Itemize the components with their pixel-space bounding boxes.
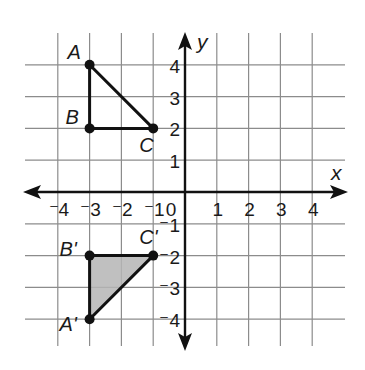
vertex-label: C' (139, 226, 158, 248)
x-tick-label: ⁻2 (112, 199, 133, 220)
vertex-point (85, 123, 95, 133)
y-tick-label: 3 (169, 88, 180, 109)
y-tick-label: ⁻1 (159, 215, 180, 236)
y-tick-label: 1 (169, 151, 180, 172)
y-axis-label: y (195, 30, 209, 53)
vertex-label: B (66, 106, 79, 128)
x-tick-label: ⁻3 (80, 199, 101, 220)
y-tick-label: 4 (169, 56, 180, 77)
y-tick-label: ⁻2 (159, 247, 180, 268)
y-tick-label: ⁻3 (159, 278, 180, 299)
vertex-label: B' (60, 238, 78, 260)
x-tick-label: 3 (276, 199, 287, 220)
x-tick-label: 1 (213, 199, 224, 220)
x-tick-label: 4 (308, 199, 319, 220)
y-tick-label: 2 (169, 119, 180, 140)
y-tick-label: ⁻4 (159, 310, 180, 331)
vertex-point (148, 251, 158, 261)
vertex-label: A (67, 41, 81, 63)
coordinate-plane: ⁻4⁻3⁻2⁻101234⁻4⁻3⁻2⁻11234 ABCA'B'C' x y (0, 0, 365, 370)
vertex-point (85, 60, 95, 70)
x-axis-label: x (330, 161, 343, 184)
x-tick-label: ⁻4 (49, 199, 70, 220)
x-tick-label: 2 (244, 199, 255, 220)
vertex-point (148, 123, 158, 133)
vertex-label: C (139, 134, 154, 156)
vertex-point (85, 314, 95, 324)
vertex-point (85, 251, 95, 261)
axes (23, 32, 348, 351)
vertex-label: A' (59, 313, 78, 335)
